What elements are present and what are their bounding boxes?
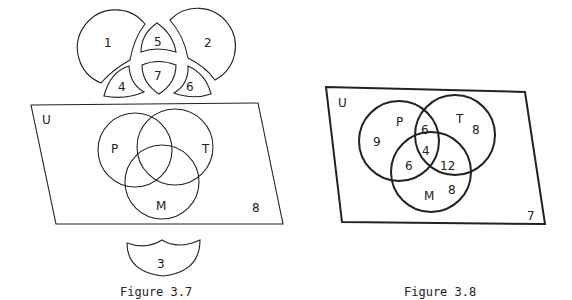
region-label-7: 7 <box>154 69 162 83</box>
set-label-p: P <box>111 142 118 156</box>
set-label-t: T <box>455 112 464 126</box>
outside-region-label: 8 <box>252 201 260 215</box>
universe-label: U <box>338 96 347 110</box>
figure-caption: Figure 3.7 <box>120 285 192 299</box>
figure-caption: Figure 3.8 <box>404 285 476 299</box>
count-outside: 7 <box>527 209 535 223</box>
set-label-t: T <box>201 142 210 156</box>
region-label-1: 1 <box>104 36 112 50</box>
figure-3-8 <box>326 87 545 224</box>
count-m-only: 8 <box>448 183 456 197</box>
set-label-m: M <box>156 199 166 213</box>
region-label-6: 6 <box>186 80 194 94</box>
count-t-only: 8 <box>472 123 480 137</box>
set-label-p: P <box>396 115 403 129</box>
region-label-4: 4 <box>118 80 126 94</box>
set-circle-p <box>98 113 172 187</box>
count-p-and-t: 6 <box>421 123 429 137</box>
diagram-canvas: 1 2 5 7 4 6 U P T M 8 3 Figure 3.7 U P T… <box>0 0 572 300</box>
region-label-2: 2 <box>204 36 212 50</box>
figure-3-7-labels: 1 2 5 7 4 6 U P T M 8 3 Figure 3.7 <box>42 35 260 299</box>
set-circle-p <box>359 101 439 181</box>
region-label-3: 3 <box>157 257 165 271</box>
set-label-m: M <box>424 189 434 203</box>
region-2-piece <box>170 8 235 80</box>
count-p-only: 9 <box>373 135 381 149</box>
region-label-5: 5 <box>154 35 162 49</box>
count-p-t-m: 4 <box>422 144 430 158</box>
count-p-and-m: 6 <box>405 159 413 173</box>
count-t-and-m: 12 <box>440 159 455 173</box>
universe-label: U <box>42 113 51 127</box>
